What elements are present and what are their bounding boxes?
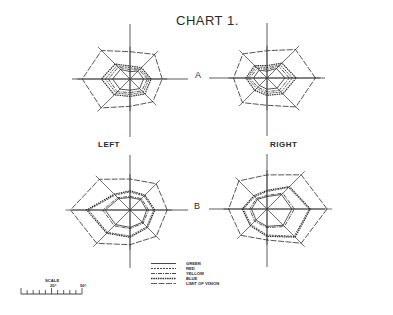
scale-end-label: 50° bbox=[80, 283, 87, 288]
side-label-left: LEFT bbox=[98, 140, 120, 149]
meridian-315 bbox=[267, 209, 305, 247]
side-label-right: RIGHT bbox=[270, 140, 297, 149]
isopter-green bbox=[253, 68, 285, 89]
chart-title: CHART 1. bbox=[176, 13, 239, 28]
field-a-right bbox=[209, 23, 325, 136]
meridian-45 bbox=[130, 180, 160, 210]
perimetry-chart: CHART 1. A B LEFT RIGHT GREEN RED YELLOW… bbox=[0, 0, 393, 315]
isopter-yellow bbox=[250, 66, 290, 91]
field-a-left bbox=[72, 24, 188, 137]
scale-mid-label: 20° bbox=[50, 283, 57, 288]
row-label-a: A bbox=[195, 70, 201, 80]
meridian-135 bbox=[235, 177, 267, 209]
legend-label-limit: LIMIT OF VISION bbox=[186, 281, 219, 286]
meridian-225 bbox=[93, 210, 130, 247]
scale-ticks bbox=[21, 288, 82, 294]
isopter-blue bbox=[87, 191, 155, 238]
scale-bar: SCALE 20° 50° bbox=[21, 278, 87, 294]
legend: GREEN RED YELLOW BLUE LIMIT OF VISION bbox=[151, 261, 219, 286]
isopter-green bbox=[252, 195, 292, 227]
isopter-green bbox=[113, 69, 144, 90]
field-b-right bbox=[209, 154, 332, 267]
field-b-left bbox=[66, 155, 188, 268]
isopter-green bbox=[105, 198, 147, 228]
meridian-225 bbox=[239, 78, 267, 106]
row-label-b: B bbox=[194, 201, 200, 211]
